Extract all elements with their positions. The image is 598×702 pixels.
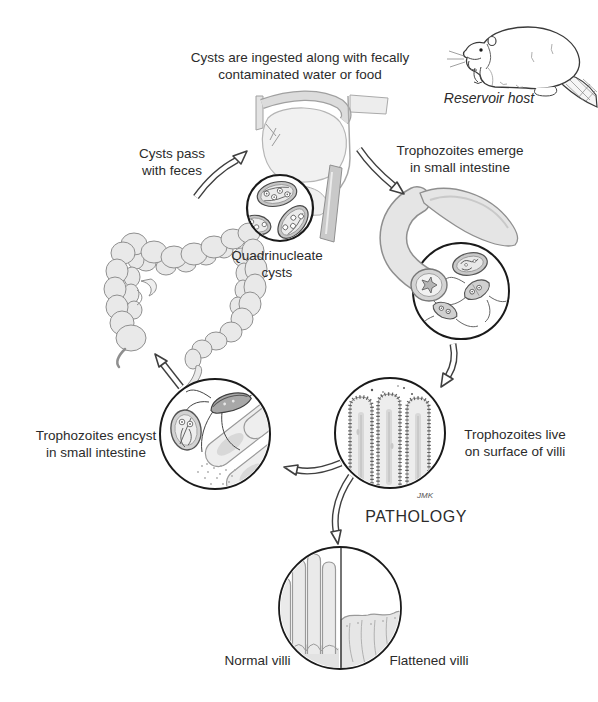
label-cysts-pass: Cysts pass with feces: [118, 145, 226, 179]
label-trophozoites-emerge: Trophozoites emerge in small intestine: [385, 142, 535, 176]
label-reservoir-host: Reservoir host: [434, 90, 544, 107]
label-cysts-ingested: Cysts are ingested along with fecally co…: [170, 49, 430, 83]
pathology-circle: [272, 547, 405, 669]
duodenum-illustration: [393, 188, 517, 339]
label-trophozoites-encyst: Trophozoites encyst in small intestine: [28, 427, 164, 461]
arrow-villi-to-encyst: [284, 463, 341, 475]
label-trophozoites-live: Trophozoites live on surface of villi: [453, 426, 577, 460]
encyst-circle: [160, 370, 305, 501]
cut-end: [411, 269, 447, 301]
label-normal-villi: Normal villi: [209, 652, 306, 669]
arrow-intestine-to-villi: [441, 344, 454, 387]
life-cycle-diagram: Cysts are ingested along with fecally co…: [0, 0, 598, 702]
artist-signature: JMK: [417, 491, 433, 500]
villus: [378, 394, 400, 489]
villi-circle: [335, 378, 445, 489]
label-pathology: PATHOLOGY: [355, 508, 477, 525]
label-quadrinucleate-cysts: Quadrinucleate cysts: [210, 247, 344, 281]
label-flattened-villi: Flattened villi: [376, 652, 482, 669]
arrow-encyst-to-colon: [155, 354, 181, 387]
arrow-villi-to-pathology: [331, 476, 351, 544]
